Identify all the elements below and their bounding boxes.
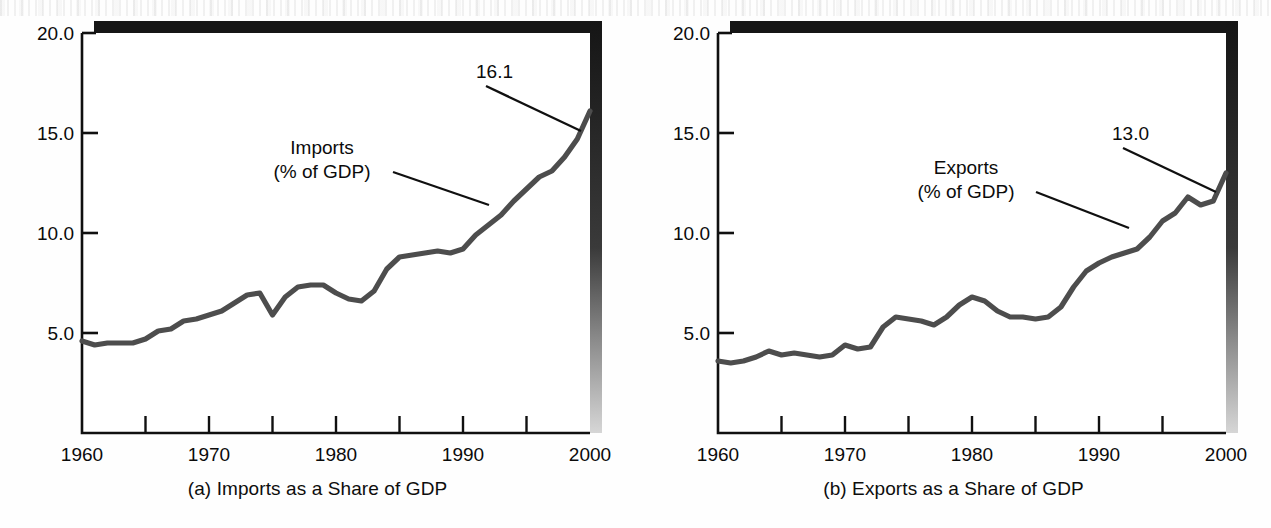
plot-shadow-top <box>730 21 1237 34</box>
xtick-label-1960: 1960 <box>697 444 739 465</box>
caption-exports: (b) Exports as a Share of GDP <box>636 478 1271 500</box>
plot-shadow-right <box>590 21 602 433</box>
xtick-label-1990: 1990 <box>442 444 484 465</box>
xtick-label-1990: 1990 <box>1078 444 1120 465</box>
plot-shadow-top <box>94 21 601 34</box>
caption-imports: (a) Imports as a Share of GDP <box>0 478 635 500</box>
xtick-label-1960: 1960 <box>61 444 103 465</box>
imports-series-label-line1: Imports <box>290 137 353 158</box>
ytick-label-15: 15.0 <box>673 123 710 144</box>
ytick-label-20: 20.0 <box>673 23 710 44</box>
xtick-label-1970: 1970 <box>824 444 866 465</box>
imports-plot: 20.0 15.0 10.0 5.0 1960 1970 1980 1990 2… <box>0 0 635 478</box>
plot-shadow-right <box>1226 21 1238 433</box>
imports-end-value-label: 16.1 <box>476 61 513 82</box>
ytick-label-15: 15.0 <box>37 123 74 144</box>
xtick-label-1980: 1980 <box>951 444 993 465</box>
ytick-label-20: 20.0 <box>37 23 74 44</box>
panel-imports: 20.0 15.0 10.0 5.0 1960 1970 1980 1990 2… <box>0 0 635 528</box>
plot-area-background <box>82 33 590 433</box>
xtick-label-1980: 1980 <box>315 444 357 465</box>
exports-series-label-line2: (% of GDP) <box>917 181 1014 202</box>
panel-exports: 20.0 15.0 10.0 5.0 1960 1970 1980 1990 2… <box>636 0 1271 528</box>
ytick-label-10: 10.0 <box>37 223 74 244</box>
ytick-label-10: 10.0 <box>673 223 710 244</box>
exports-plot: 20.0 15.0 10.0 5.0 1960 1970 1980 1990 2… <box>636 0 1271 478</box>
exports-end-value-label: 13.0 <box>1112 123 1149 144</box>
xtick-label-2000: 2000 <box>569 444 611 465</box>
xtick-label-1970: 1970 <box>188 444 230 465</box>
imports-series-label-line2: (% of GDP) <box>273 161 370 182</box>
xtick-label-2000: 2000 <box>1205 444 1247 465</box>
ytick-label-5: 5.0 <box>48 323 74 344</box>
exports-series-label-line1: Exports <box>934 157 998 178</box>
ytick-label-5: 5.0 <box>684 323 710 344</box>
figure-container: 20.0 15.0 10.0 5.0 1960 1970 1980 1990 2… <box>0 0 1271 528</box>
